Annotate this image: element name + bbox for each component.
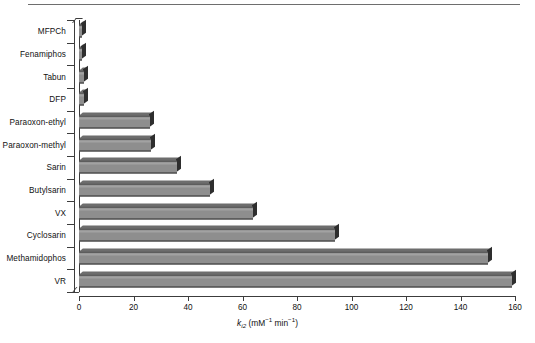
bar: [79, 138, 151, 151]
y-axis-tick-label: Methamidophos: [6, 253, 66, 262]
y-axis-tick-label: DFP: [49, 95, 66, 104]
y-axis-tick-label: Butylsarin: [29, 185, 66, 194]
y-axis-tick-label: MFPCh: [38, 27, 66, 36]
bar: [79, 229, 335, 242]
bar: [79, 206, 253, 219]
bar-chart-figure: MFPChFenamiphosTabunDFPParaoxon-ethylPar…: [0, 0, 535, 343]
x-axis-units-1: (mM: [248, 318, 265, 328]
bar-row: Butylsarin: [0, 179, 535, 202]
x-axis-tick-label: 0: [77, 303, 82, 312]
x-axis-tick-label: 80: [292, 303, 301, 312]
y-axis-tick-label: Cyclosarin: [27, 231, 66, 240]
bar-row: Sarin: [0, 156, 535, 179]
bar-front-face: [79, 93, 84, 106]
bar: [79, 183, 210, 196]
y-axis-tick-label: VX: [55, 208, 66, 217]
x-axis-tick: [352, 296, 353, 301]
y-axis-tick-label: Fenamiphos: [20, 49, 66, 58]
x-axis-tick-label: 160: [508, 303, 522, 312]
x-axis-units-close: ): [295, 318, 298, 328]
plot-area: MFPChFenamiphosTabunDFPParaoxon-ethylPar…: [0, 18, 535, 296]
x-axis-tick-label: 40: [183, 303, 192, 312]
top-divider-rule: [28, 4, 520, 5]
bar-front-face: [79, 70, 84, 83]
x-axis-tick-label: 60: [238, 303, 247, 312]
bar: [79, 70, 84, 83]
bar-front-face: [79, 229, 335, 242]
y-axis-tick: [67, 20, 74, 21]
x-axis-tick: [297, 296, 298, 301]
bar-row: VR: [0, 269, 535, 292]
x-axis-tick-label: 20: [129, 303, 138, 312]
bar-front-face: [79, 25, 82, 38]
bar-front-face: [79, 251, 488, 264]
bar: [79, 161, 177, 174]
x-axis-tick: [461, 296, 462, 301]
bar-row: VX: [0, 201, 535, 224]
bar-front-face: [79, 161, 177, 174]
y-axis-tick-label: Paraoxon-methyl: [3, 140, 66, 149]
bar-row: DFP: [0, 88, 535, 111]
x-axis-tick: [134, 296, 135, 301]
bar: [79, 274, 512, 287]
bar-row: Paraoxon-methyl: [0, 133, 535, 156]
bar-front-face: [79, 138, 151, 151]
y-axis-tick-label: Sarin: [46, 163, 66, 172]
x-axis-tick: [406, 296, 407, 301]
bar-row: Cyclosarin: [0, 224, 535, 247]
x-axis-tick: [188, 296, 189, 301]
y-axis-tick-label: VR: [54, 276, 66, 285]
bar-front-face: [79, 47, 82, 60]
x-axis-units-mid: min: [272, 318, 288, 328]
x-axis-tick-label: 100: [345, 303, 359, 312]
bar-row: MFPCh: [0, 20, 535, 43]
bar: [79, 47, 82, 60]
bar: [79, 251, 488, 264]
x-axis-tick: [515, 296, 516, 301]
y-axis-tick: [67, 292, 74, 293]
x-axis-tick: [243, 296, 244, 301]
bar: [79, 115, 150, 128]
y-axis-tick-label: Paraoxon-ethyl: [10, 117, 66, 126]
bar-row: Tabun: [0, 65, 535, 88]
bar-front-face: [79, 274, 512, 287]
x-axis-tick-label: 140: [454, 303, 468, 312]
bar-front-face: [79, 206, 253, 219]
bar-row: Fenamiphos: [0, 43, 535, 66]
x-axis-title: ki2 (mM−1 min−1): [0, 316, 535, 329]
y-axis-tick-label: Tabun: [43, 72, 66, 81]
x-axis-tick-label: 120: [399, 303, 413, 312]
bar: [79, 93, 84, 106]
bar-front-face: [79, 115, 150, 128]
bar: [79, 25, 82, 38]
bar-row: Paraoxon-ethyl: [0, 111, 535, 134]
bar-front-face: [79, 183, 210, 196]
bar-row: Methamidophos: [0, 247, 535, 270]
x-axis-tick: [79, 296, 80, 301]
